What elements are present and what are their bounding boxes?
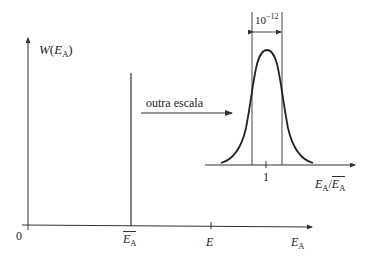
bell-curve bbox=[221, 50, 313, 163]
mean-overline: EA bbox=[123, 231, 136, 245]
inset-den-overline: EA bbox=[332, 176, 345, 190]
inset-num-sub: A bbox=[322, 183, 328, 193]
y-label-close: ) bbox=[68, 42, 72, 57]
x-axis-label: EA bbox=[291, 236, 304, 248]
main-x-axis bbox=[22, 225, 312, 227]
y-label-func: W bbox=[39, 42, 50, 57]
inset-den-sub: A bbox=[339, 183, 345, 193]
y-axis-label: W(EA) bbox=[39, 43, 73, 56]
scale-annotation: outra escala bbox=[146, 97, 203, 109]
mean-energy-label: EA bbox=[123, 231, 136, 245]
inset-tick-label: 1 bbox=[263, 171, 269, 183]
y-label-var: E bbox=[54, 42, 62, 57]
width-base: 10 bbox=[255, 14, 266, 26]
width-label: 10−12 bbox=[255, 15, 279, 26]
inset-x-axis-label: EA/EA bbox=[315, 176, 345, 190]
diagram-canvas bbox=[0, 0, 370, 258]
origin-label: 0 bbox=[16, 230, 22, 242]
tick-label-E: E bbox=[206, 236, 213, 248]
mean-sub: A bbox=[130, 238, 136, 248]
width-exp: −12 bbox=[266, 12, 279, 21]
x-label-sub: A bbox=[298, 241, 304, 251]
y-label-sub: A bbox=[62, 49, 68, 59]
